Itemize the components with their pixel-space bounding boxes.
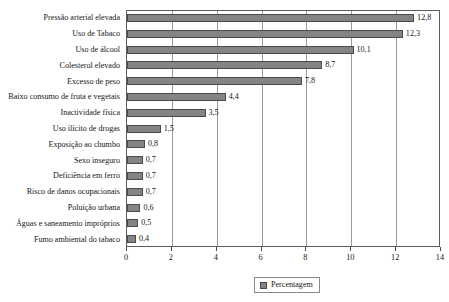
- bar-value-label: 0,5: [141, 217, 151, 228]
- bar: [127, 188, 143, 196]
- x-axis-tick: [350, 247, 351, 251]
- bar: [127, 30, 403, 38]
- x-axis-labels: 02468101214: [126, 252, 440, 264]
- category-label: Sexo inseguro: [74, 155, 120, 166]
- bar-row: 10,1: [127, 43, 441, 58]
- bar-value-label: 10,1: [357, 44, 371, 55]
- x-axis-tick-label: 2: [156, 252, 186, 263]
- chart-legend: Percentagem: [254, 277, 320, 293]
- x-axis-tick-label: 4: [201, 252, 231, 263]
- legend-swatch-percentagem: [260, 282, 267, 289]
- x-axis-tick: [305, 247, 306, 251]
- x-axis-tick: [440, 247, 441, 251]
- bar-row: 0,5: [127, 216, 441, 231]
- bar-row: 0,6: [127, 201, 441, 216]
- bar: [127, 235, 136, 243]
- bar: [127, 14, 414, 22]
- bar-row: 3,5: [127, 106, 441, 121]
- x-axis-tick: [126, 247, 127, 251]
- category-label: Excesso de peso: [67, 76, 120, 87]
- category-label: Uso ilícito de drogas: [53, 123, 120, 134]
- x-axis-tick: [171, 247, 172, 251]
- x-axis-tick-label: 12: [380, 252, 410, 263]
- bar: [127, 219, 138, 227]
- bar-row: 12,3: [127, 27, 441, 42]
- category-label: Exposição ao chumbo: [49, 139, 120, 150]
- bar-value-label: 0,7: [146, 170, 156, 181]
- bar-row: 0,7: [127, 169, 441, 184]
- category-label: Deficiência em ferro: [53, 170, 120, 181]
- bar-value-label: 7,8: [305, 75, 315, 86]
- bar-row: 0,4: [127, 232, 441, 247]
- x-axis-tick: [395, 247, 396, 251]
- bar-value-label: 8,7: [325, 59, 335, 70]
- bar-value-label: 4,4: [229, 91, 239, 102]
- bar: [127, 172, 143, 180]
- bar: [127, 156, 143, 164]
- bar: [127, 204, 140, 212]
- x-axis-tick-label: 10: [335, 252, 365, 263]
- x-axis-tick: [261, 247, 262, 251]
- bar: [127, 46, 354, 54]
- bar-row: 1,5: [127, 122, 441, 137]
- x-axis-tick-label: 14: [425, 252, 449, 263]
- category-label: Uso de álcool: [75, 44, 120, 55]
- bar-row: 4,4: [127, 90, 441, 105]
- category-label: Poluição urbana: [68, 202, 120, 213]
- category-label: Fumo ambiental do tabaco: [34, 234, 120, 245]
- category-label: Pressão arterial elevada: [44, 12, 120, 23]
- bar: [127, 140, 145, 148]
- bar: [127, 125, 161, 133]
- bar-value-label: 0,4: [139, 233, 149, 244]
- category-label: Colesterol elevado: [60, 60, 120, 71]
- bar: [127, 109, 206, 117]
- bar-value-label: 0,6: [143, 202, 153, 213]
- x-axis-tick-label: 6: [246, 252, 276, 263]
- category-label: Baixo consumo de fruta e vegetais: [8, 91, 120, 102]
- bar: [127, 61, 322, 69]
- category-label: Águas e saneamento impróprios: [16, 218, 120, 229]
- bar-row: 0,7: [127, 153, 441, 168]
- category-label: Inactividade física: [60, 107, 120, 118]
- bar-row: 12,8: [127, 11, 441, 26]
- bar-value-label: 0,7: [146, 186, 156, 197]
- bar-value-label: 0,7: [146, 154, 156, 165]
- plot-area: 12,812,310,18,77,84,43,51,50,80,70,70,70…: [126, 10, 440, 247]
- category-label: Uso de Tabaco: [72, 28, 120, 39]
- x-axis-tick: [216, 247, 217, 251]
- x-axis-tick-label: 0: [111, 252, 141, 263]
- category-label: Risco de danos ocupacionais: [27, 186, 120, 197]
- bar-value-label: 3,5: [209, 107, 219, 118]
- bar-row: 0,8: [127, 137, 441, 152]
- bar-row: 7,8: [127, 74, 441, 89]
- bar-value-label: 0,8: [148, 138, 158, 149]
- bar-value-label: 1,5: [164, 123, 174, 134]
- bar-row: 0,7: [127, 185, 441, 200]
- bar-chart: Pressão arterial elevadaUso de TabacoUso…: [0, 0, 449, 302]
- x-axis-tick-label: 8: [290, 252, 320, 263]
- bar: [127, 77, 302, 85]
- bar: [127, 93, 226, 101]
- bar-value-label: 12,3: [406, 28, 420, 39]
- bar-value-label: 12,8: [417, 12, 431, 23]
- bars-layer: 12,812,310,18,77,84,43,51,50,80,70,70,70…: [127, 11, 439, 246]
- bar-row: 8,7: [127, 58, 441, 73]
- category-axis: Pressão arterial elevadaUso de TabacoUso…: [0, 10, 123, 247]
- legend-label-percentagem: Percentagem: [271, 280, 313, 290]
